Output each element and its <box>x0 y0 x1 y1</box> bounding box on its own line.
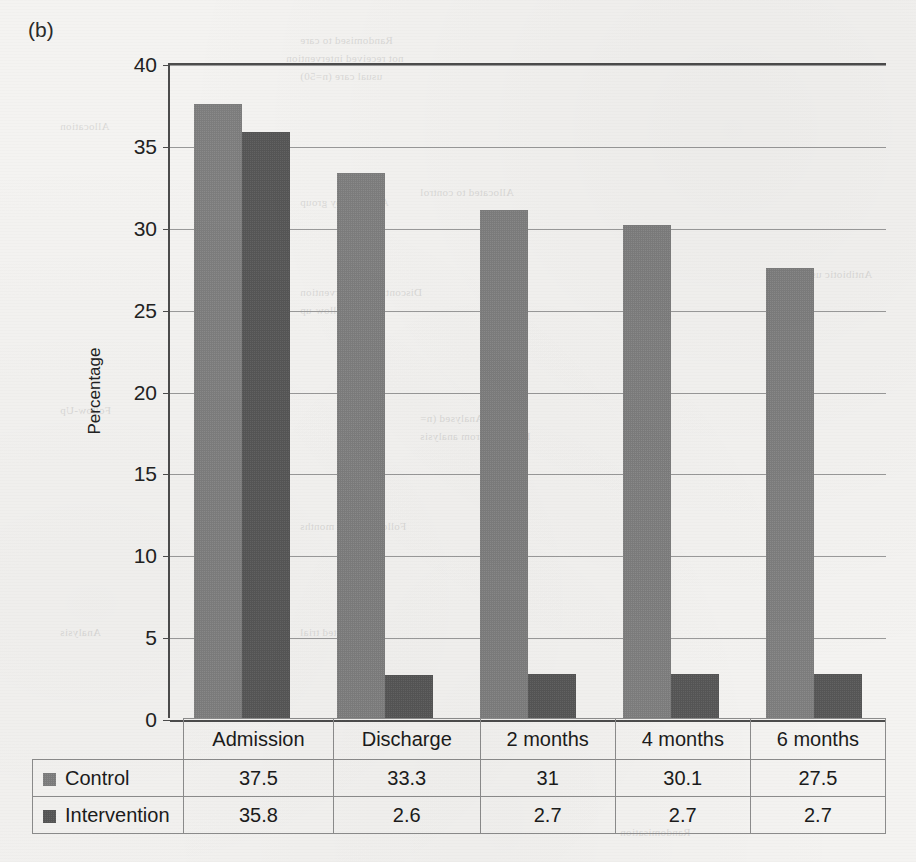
data-table: AdmissionDischarge2 months4 months6 mont… <box>32 718 886 834</box>
y-tick-mark-25 <box>163 311 170 312</box>
column-header-discharge: Discharge <box>333 719 480 760</box>
bar-pair <box>337 65 433 718</box>
y-tick-label-5: 5 <box>145 626 157 650</box>
bar-intervention-discharge <box>385 675 433 718</box>
bleed-text: Randomised to care <box>300 34 393 46</box>
cell-control-2-months: 31 <box>480 760 615 797</box>
bleed-text: Analysis <box>60 626 101 638</box>
cell-intervention-admission: 35.8 <box>184 797 334 834</box>
legend-swatch-icon-intervention <box>43 810 56 823</box>
y-tick-mark-20 <box>163 393 170 394</box>
bar-intervention-2-months <box>528 674 576 718</box>
bar-intervention-4-months <box>671 674 719 718</box>
cell-intervention-2-months: 2.7 <box>480 797 615 834</box>
cell-control-6-months: 27.5 <box>750 760 885 797</box>
column-header-4-months: 4 months <box>615 719 750 760</box>
column-header-2-months: 2 months <box>480 719 615 760</box>
y-tick-label-10: 10 <box>134 544 157 568</box>
cell-intervention-4-months: 2.7 <box>615 797 750 834</box>
bar-group-4-months <box>600 65 743 718</box>
bar-pair <box>480 65 576 718</box>
bar-group-6-months <box>743 65 886 718</box>
y-tick-mark-35 <box>163 147 170 148</box>
y-tick-label-15: 15 <box>134 462 157 486</box>
cell-control-admission: 37.5 <box>184 760 334 797</box>
bar-group-2-months <box>456 65 599 718</box>
bar-control-4-months <box>623 225 671 718</box>
table-row: Intervention35.82.62.72.72.7 <box>33 797 886 834</box>
cell-intervention-6-months: 2.7 <box>750 797 885 834</box>
y-tick-label-20: 20 <box>134 381 157 405</box>
bar-group-discharge <box>313 65 456 718</box>
table-row: Control37.533.33130.127.5 <box>33 760 886 797</box>
legend-swatch-icon-control <box>43 773 56 786</box>
bar-chart: 4035302520151050 Percentage <box>168 63 886 718</box>
bar-intervention-6-months <box>814 674 862 718</box>
column-header-6-months: 6 months <box>750 719 885 760</box>
legend-item-intervention: Intervention <box>33 797 184 834</box>
bar-control-2-months <box>480 210 528 718</box>
table-corner-cell <box>33 719 184 760</box>
bar-control-admission <box>194 104 242 718</box>
bar-pair <box>623 65 719 718</box>
legend-label-control: Control <box>65 767 129 789</box>
bar-pair <box>194 65 290 718</box>
y-tick-label-40: 40 <box>134 53 157 77</box>
y-tick-mark-40 <box>163 65 170 66</box>
y-tick-mark-5 <box>163 638 170 639</box>
y-tick-mark-10 <box>163 556 170 557</box>
bar-group-admission <box>170 65 313 718</box>
bar-intervention-admission <box>242 132 290 718</box>
cell-control-discharge: 33.3 <box>333 760 480 797</box>
y-tick-mark-30 <box>163 229 170 230</box>
y-axis-title: Percentage <box>85 347 105 434</box>
bar-groups <box>170 65 886 718</box>
cell-control-4-months: 30.1 <box>615 760 750 797</box>
bleed-text: Allocation <box>60 120 109 132</box>
bar-pair <box>766 65 862 718</box>
table-header-row: AdmissionDischarge2 months4 months6 mont… <box>33 719 886 760</box>
bar-control-discharge <box>337 173 385 718</box>
y-tick-label-35: 35 <box>134 135 157 159</box>
plot-area: 4035302520151050 <box>168 63 886 718</box>
legend-item-control: Control <box>33 760 184 797</box>
y-tick-label-25: 25 <box>134 299 157 323</box>
cell-intervention-discharge: 2.6 <box>333 797 480 834</box>
panel-label: (b) <box>28 18 54 42</box>
y-tick-mark-15 <box>163 474 170 475</box>
bar-control-6-months <box>766 268 814 718</box>
column-header-admission: Admission <box>184 719 334 760</box>
legend-label-intervention: Intervention <box>65 804 170 826</box>
y-tick-label-30: 30 <box>134 217 157 241</box>
